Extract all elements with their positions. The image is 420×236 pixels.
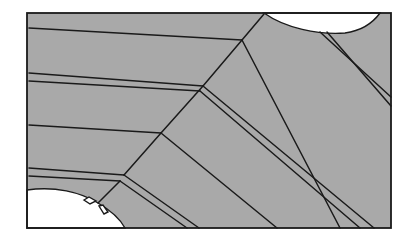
microstructure-diagram [0, 0, 420, 236]
